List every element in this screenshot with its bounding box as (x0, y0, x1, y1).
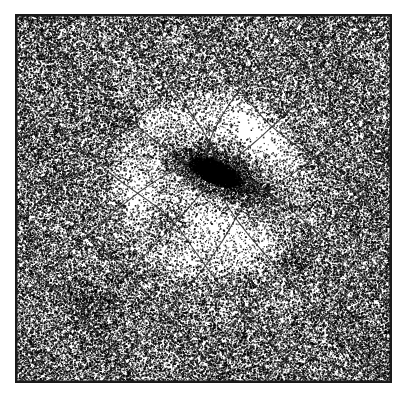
lens-stipple-canvas (0, 0, 416, 399)
figure-root (0, 0, 416, 399)
